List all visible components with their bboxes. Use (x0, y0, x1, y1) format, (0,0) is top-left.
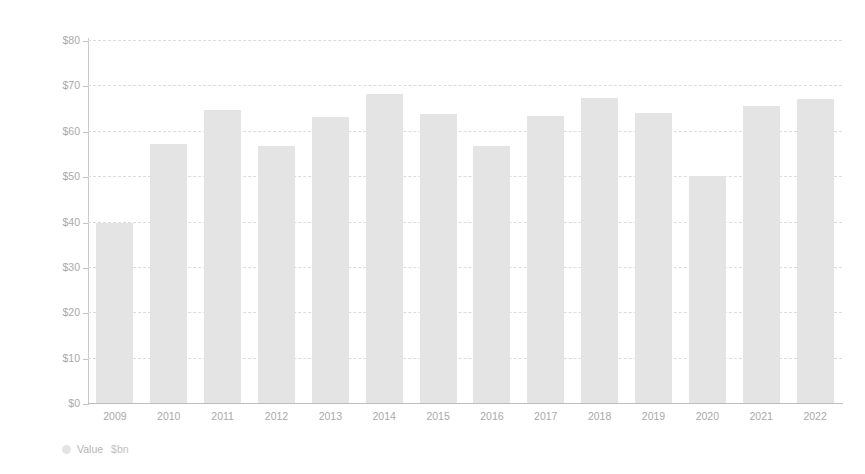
bar-2021[interactable] (743, 106, 780, 403)
bar-slot (250, 40, 304, 403)
legend-series-label: Value (77, 443, 103, 455)
x-axis-tick-label: 2009 (88, 410, 142, 422)
bar-chart: $ billion $0$10$20$30$40$50$60$70$80 200… (0, 0, 865, 474)
bar-2014[interactable] (366, 94, 403, 403)
bar-2020[interactable] (689, 176, 726, 403)
y-axis-tick-label: $80 (38, 35, 80, 45)
bar-2015[interactable] (420, 114, 457, 403)
bar-slot (357, 40, 411, 403)
x-axis-tick-label: 2022 (788, 410, 842, 422)
plot-area (88, 40, 842, 403)
chart-legend[interactable]: Value $bn (62, 443, 129, 455)
y-axis-tick-label: $50 (38, 171, 80, 181)
x-axis-tick-label: 2012 (250, 410, 304, 422)
bar-slot (734, 40, 788, 403)
bar-slot (411, 40, 465, 403)
legend-series-unit: $bn (111, 443, 129, 455)
bar-slot (465, 40, 519, 403)
bar-2012[interactable] (258, 146, 295, 403)
x-axis-tick-label: 2014 (357, 410, 411, 422)
bar-slot (519, 40, 573, 403)
bar-2018[interactable] (581, 98, 618, 403)
x-axis-tick-label: 2017 (519, 410, 573, 422)
y-axis-tick-label: $30 (38, 262, 80, 272)
x-axis-tick-label: 2013 (303, 410, 357, 422)
bar-2019[interactable] (635, 113, 672, 403)
y-axis-tick (83, 404, 88, 405)
bar-slot (788, 40, 842, 403)
y-axis-tick-label: $20 (38, 307, 80, 317)
y-axis-tick-label: $60 (38, 126, 80, 136)
x-axis-tick-label: 2020 (680, 410, 734, 422)
bar-slot (573, 40, 627, 403)
chart-title-ghost (540, 0, 760, 9)
x-axis-tick-label: 2010 (142, 410, 196, 422)
bar-2013[interactable] (312, 117, 349, 403)
x-axis-tick-label: 2015 (411, 410, 465, 422)
bar-slot (680, 40, 734, 403)
x-axis-tick-label: 2021 (734, 410, 788, 422)
bar-2017[interactable] (527, 116, 564, 403)
bar-slot (196, 40, 250, 403)
x-axis-tick-label: 2016 (465, 410, 519, 422)
y-axis-tick-label: $40 (38, 217, 80, 227)
bar-2016[interactable] (473, 146, 510, 403)
y-axis-tick-label: $10 (38, 353, 80, 363)
x-axis-tick-label: 2011 (196, 410, 250, 422)
gridline (88, 403, 842, 404)
y-axis-tick-label: $0 (38, 398, 80, 408)
bar-slot (627, 40, 681, 403)
bar-slot (88, 40, 142, 403)
bar-2011[interactable] (204, 110, 241, 403)
bar-2022[interactable] (797, 99, 834, 403)
bar-2009[interactable] (96, 223, 133, 403)
x-axis-tick-label: 2018 (573, 410, 627, 422)
bar-2010[interactable] (150, 144, 187, 403)
bar-slot (142, 40, 196, 403)
x-axis-tick-label: 2019 (627, 410, 681, 422)
y-axis-tick-label: $70 (38, 80, 80, 90)
bar-slot (303, 40, 357, 403)
legend-marker-icon (62, 445, 71, 454)
bar-group (88, 40, 842, 403)
